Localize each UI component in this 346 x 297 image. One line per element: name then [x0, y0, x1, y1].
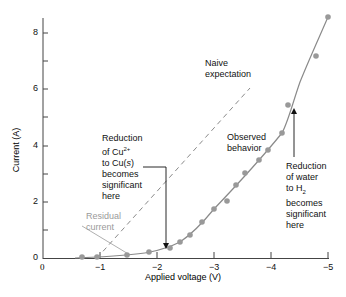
x-tick-5: −5: [323, 262, 333, 272]
x-tick-2: −2: [152, 262, 162, 272]
x-tick-0: 0: [40, 262, 45, 272]
chart-plot: [0, 0, 346, 297]
x-tick-4: −4: [266, 262, 276, 272]
y-tick-8: 8: [33, 27, 38, 37]
x-tick-3: −3: [209, 262, 219, 272]
residual-current-label: Residual current: [86, 211, 121, 233]
y-tick-0: 0: [33, 252, 38, 262]
naive-expectation-label: Naive expectation: [205, 58, 251, 80]
y-ticks: [43, 33, 48, 230]
x-tick-1: −1: [95, 262, 105, 272]
y-tick-2: 2: [33, 196, 38, 206]
x-ticks: [100, 252, 328, 258]
y-tick-4: 4: [33, 140, 38, 150]
x-axis-title: Applied voltage (V): [145, 272, 221, 282]
cu-reduction-arrow: [143, 167, 166, 245]
water-reduction-label: Reduction of water to H2 becomes signifi…: [286, 161, 327, 231]
water-arrowhead-icon: [291, 108, 297, 114]
cu-reduction-label: Reduction of Cu2+ to Cu(s) becomes signi…: [102, 133, 143, 202]
y-axis-title: Current (A): [11, 128, 21, 173]
y-tick-6: 6: [33, 83, 38, 93]
observed-behavior-label: Observed behavior: [227, 132, 266, 154]
